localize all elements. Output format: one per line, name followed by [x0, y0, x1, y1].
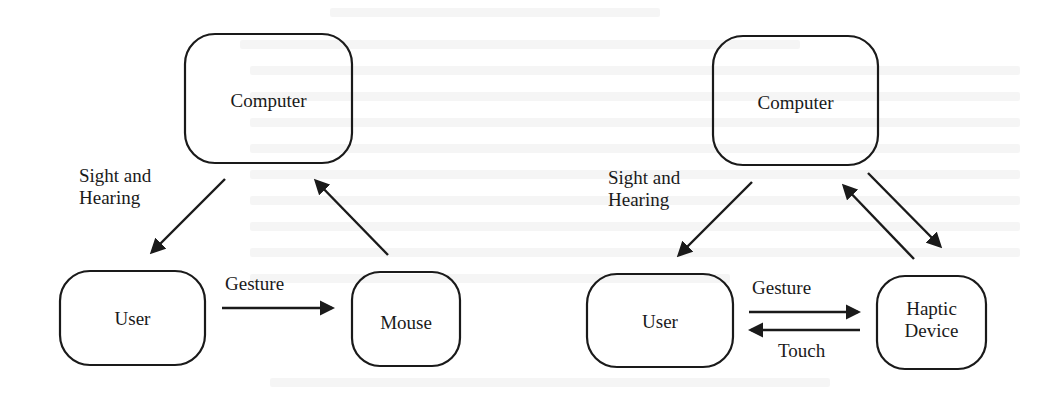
arrow-computer-to-user-right [679, 182, 752, 255]
sight-hearing-label-left-line1: Sight and [79, 165, 151, 186]
touch-label: Touch [778, 340, 825, 361]
computer-node-label-left: Computer [185, 90, 352, 111]
mouse-node-label: Mouse [352, 312, 460, 333]
sight-hearing-label-right-line1: Sight and [608, 167, 680, 188]
haptic-device-label-line1: Haptic [877, 298, 986, 319]
arrow-mouse-to-computer [316, 181, 388, 255]
gesture-label-left: Gesture [225, 273, 284, 294]
user-node-label-right: User [587, 311, 733, 332]
sight-hearing-label-left-line2: Hearing [79, 187, 140, 208]
arrow-haptic-to-computer [844, 186, 914, 259]
computer-node-label-right: Computer [713, 92, 878, 113]
user-node-label-left: User [60, 308, 205, 329]
arrow-computer-to-user-left [152, 179, 225, 252]
sight-hearing-label-right-line2: Hearing [608, 189, 669, 210]
arrow-computer-to-haptic [868, 173, 940, 246]
gesture-label-right: Gesture [752, 277, 811, 298]
haptic-device-label-line2: Device [877, 320, 986, 341]
